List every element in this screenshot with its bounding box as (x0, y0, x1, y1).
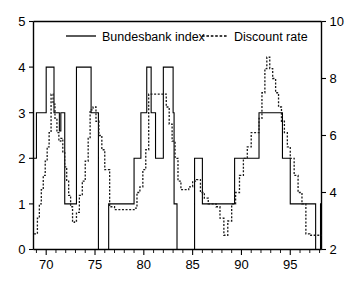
right-axis-tick-label: 10 (330, 14, 344, 29)
left-axis-tick-label: 2 (18, 151, 25, 166)
right-axis-tick-label: 8 (330, 71, 337, 86)
x-axis-tick-label: 95 (283, 257, 297, 272)
right-axis-tick-label: 6 (330, 128, 337, 143)
left-axis-tick-label: 0 (18, 242, 25, 257)
legend-label-bundesbank-index: Bundesbank index (102, 30, 206, 44)
legend-label-discount-rate: Discount rate (234, 30, 308, 44)
x-axis-tick-label: 75 (88, 257, 102, 272)
x-axis-tick-label: 70 (39, 257, 53, 272)
chart-legend: Bundesbank index Discount rate (66, 30, 308, 44)
chart-container: 012345 246810 707580859095 Bundesbank in… (0, 0, 357, 286)
right-axis-tick-label: 4 (330, 185, 337, 200)
left-axis-tick-label: 3 (18, 106, 25, 121)
bundesbank-discount-rate-chart: 012345 246810 707580859095 Bundesbank in… (0, 0, 357, 286)
left-axis-tick-label: 4 (18, 60, 25, 75)
left-axis-tick-label: 1 (18, 197, 25, 212)
right-axis-tick-label: 2 (330, 242, 337, 257)
x-axis-tick-label: 85 (185, 257, 199, 272)
x-axis-tick-label: 90 (234, 257, 248, 272)
x-axis-tick-label: 80 (137, 257, 151, 272)
left-axis-tick-label: 5 (18, 14, 25, 29)
